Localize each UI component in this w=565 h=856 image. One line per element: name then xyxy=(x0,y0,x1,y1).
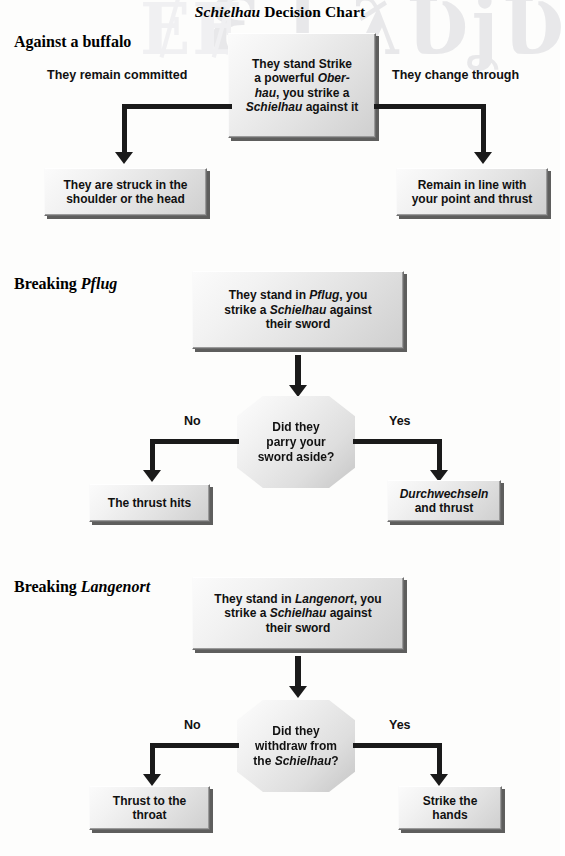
arrowhead-buffalo-left xyxy=(115,152,133,164)
arrowhead-langenort-right xyxy=(430,774,448,786)
start-box-buffalo-line2-pre: a powerful xyxy=(254,71,317,85)
section-heading-breaking-pflug: Breaking Pflug xyxy=(14,275,117,293)
section-heading-pflug-plain: Breaking xyxy=(14,275,81,292)
decision-langenort-line3-pre: the xyxy=(253,754,274,768)
outcome-pflug-right-line2: and thrust xyxy=(415,501,474,515)
page-title: Schielhau Decision Chart xyxy=(0,3,560,21)
start-box-langenort: They stand in Langenort, you strike a Sc… xyxy=(192,577,404,650)
outcome-buffalo-right-line1: Remain in line with xyxy=(418,178,527,192)
start-box-pflug-line1-post: , you xyxy=(339,288,367,302)
start-box-langenort-line3: their sword xyxy=(266,621,331,635)
start-box-buffalo-line3-italic: hau xyxy=(255,86,276,100)
connector-pflug-left-horizontal xyxy=(150,439,239,444)
edge-label-pflug-no: No xyxy=(184,414,201,428)
start-box-pflug-line2-italic: Schielhau xyxy=(270,303,327,317)
page-title-italic: Schielhau xyxy=(195,3,261,20)
decision-langenort-line3-italic: Schielhau xyxy=(275,754,332,768)
connector-pflug-down xyxy=(295,355,301,387)
start-box-langenort-line2-pre: strike a xyxy=(224,606,269,620)
decision-langenort-line2: withdraw from xyxy=(255,739,337,753)
section-heading-text: Against a buffalo xyxy=(14,33,131,50)
outcome-langenort-left-line2: throat xyxy=(133,808,167,822)
outcome-box-langenort-right: Strike the hands xyxy=(398,786,502,830)
outcome-pflug-right-line1-italic: Durchwechseln xyxy=(400,487,489,501)
decision-pflug-line1: Did they xyxy=(272,420,319,434)
section-heading-langenort-plain: Breaking xyxy=(14,578,81,595)
arrowhead-langenort-left xyxy=(143,774,161,786)
connector-langenort-right-vertical xyxy=(437,743,442,776)
start-box-pflug-line3: their sword xyxy=(266,317,331,331)
start-box-langenort-line2-post: against xyxy=(326,606,371,620)
connector-pflug-right-horizontal xyxy=(353,439,442,444)
section-heading-pflug-italic: Pflug xyxy=(81,275,117,292)
edge-label-langenort-no: No xyxy=(184,718,201,732)
connector-pflug-left-vertical xyxy=(150,439,155,472)
section-heading-breaking-langenort: Breaking Langenort xyxy=(14,578,150,596)
connector-langenort-right-horizontal xyxy=(353,743,442,748)
section-heading-against-a-buffalo: Against a buffalo xyxy=(14,33,131,51)
outcome-box-buffalo-left: They are struck in the shoulder or the h… xyxy=(44,168,207,216)
section-heading-langenort-italic: Langenort xyxy=(81,578,150,595)
start-box-langenort-line1-pre: They stand in xyxy=(214,592,295,606)
connector-buffalo-right-horizontal xyxy=(374,104,486,109)
outcome-box-pflug-right: Durchwechseln and thrust xyxy=(387,480,501,522)
arrowhead-pflug-down xyxy=(289,385,307,397)
edge-label-buffalo-left: They remain committed xyxy=(47,68,187,82)
edge-label-pflug-yes: Yes xyxy=(389,414,411,428)
outcome-langenort-right-line1: Strike the xyxy=(423,794,478,808)
start-box-pflug-line2-post: against xyxy=(326,303,371,317)
start-box-pflug: They stand in Pflug, you strike a Schiel… xyxy=(192,271,404,349)
decision-pflug-line2: parry your xyxy=(266,435,325,449)
start-box-pflug-line1-italic: Pflug xyxy=(309,288,339,302)
edge-label-buffalo-right: They change through xyxy=(392,68,519,82)
connector-buffalo-left-vertical xyxy=(122,104,127,154)
page-title-rest: Decision Chart xyxy=(260,3,365,20)
outcome-buffalo-right-line2: your point and thrust xyxy=(412,192,533,206)
arrowhead-langenort-down xyxy=(289,686,307,698)
start-box-pflug-line1-pre: They stand in xyxy=(229,288,310,302)
connector-pflug-right-vertical xyxy=(437,439,442,472)
start-box-pflug-line2-pre: strike a xyxy=(224,303,269,317)
decision-pflug-line3: sword aside? xyxy=(258,450,335,464)
connector-langenort-down xyxy=(295,656,301,688)
connector-langenort-left-vertical xyxy=(150,743,155,776)
start-box-buffalo-line4-post: against it xyxy=(302,100,358,114)
start-box-buffalo-line3-post: , you strike a xyxy=(276,86,349,100)
connector-langenort-left-horizontal xyxy=(150,743,239,748)
outcome-langenort-right-line2: hands xyxy=(432,808,467,822)
outcome-box-pflug-left: The thrust hits xyxy=(89,484,210,522)
arrowhead-pflug-left xyxy=(143,470,161,482)
outcome-pflug-left-line1: The thrust hits xyxy=(108,496,191,510)
outcome-buffalo-left-line2: shoulder or the head xyxy=(66,192,185,206)
decision-node-langenort: Did they withdraw from the Schielhau? xyxy=(237,700,355,792)
start-box-buffalo-line2-italic: Ober- xyxy=(318,71,350,85)
decision-node-pflug: Did they parry your sword aside? xyxy=(237,396,355,488)
connector-buffalo-right-vertical xyxy=(481,104,486,154)
decision-langenort-line3-post: ? xyxy=(331,754,338,768)
outcome-box-langenort-left: Thrust to the throat xyxy=(89,786,210,830)
arrowhead-buffalo-right xyxy=(474,152,492,164)
start-box-langenort-line2-italic: Schielhau xyxy=(270,606,327,620)
start-box-langenort-line1-post: , you xyxy=(354,592,382,606)
edge-label-langenort-yes: Yes xyxy=(389,718,411,732)
decision-langenort-line1: Did they xyxy=(272,724,319,738)
outcome-box-buffalo-right: Remain in line with your point and thrus… xyxy=(396,168,548,216)
connector-buffalo-left-horizontal xyxy=(122,104,232,109)
start-box-buffalo: They stand Strike a powerful Ober- hau, … xyxy=(228,33,376,138)
start-box-langenort-line1-italic: Langenort xyxy=(295,592,354,606)
start-box-buffalo-line4-italic: Schielhau xyxy=(246,100,303,114)
outcome-buffalo-left-line1: They are struck in the xyxy=(63,178,187,192)
start-box-buffalo-line1: They stand Strike xyxy=(252,57,352,71)
outcome-langenort-left-line1: Thrust to the xyxy=(113,794,186,808)
